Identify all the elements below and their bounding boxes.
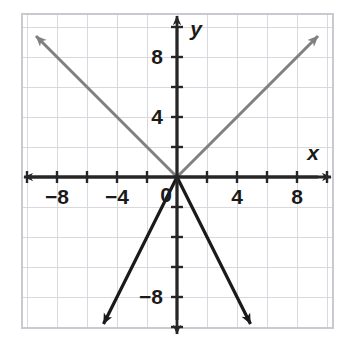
graph-canvas: −8−404884−8 x y [0, 0, 347, 351]
x-axis-label: x [306, 141, 320, 164]
x-axis-tick-label: −4 [105, 185, 129, 208]
y-axis-tick-label: −8 [139, 285, 163, 308]
x-axis-tick-label: −8 [45, 185, 69, 208]
x-axis-tick-label-origin: 0 [160, 183, 172, 206]
y-axis-tick-label: 4 [151, 105, 163, 128]
y-axis-label: y [189, 17, 203, 40]
coordinate-plane-graph: −8−404884−8 x y [0, 0, 347, 351]
x-axis-tick-label: 8 [291, 185, 303, 208]
y-axis-tick-label: 8 [151, 45, 163, 68]
x-axis-tick-label: 4 [231, 185, 243, 208]
